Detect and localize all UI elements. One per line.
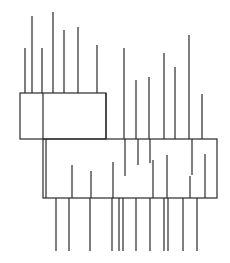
spikes-above-upper-box [25,12,97,93]
line-diagram-canvas [0,0,230,263]
box-outlines [20,93,217,198]
inner-drop-lines [125,139,192,176]
box-dividers [43,93,106,198]
lower-box [43,139,217,198]
spikes-above-lower-box [124,35,202,139]
spikes-below-lower-box [56,198,197,251]
upper-box [20,93,106,139]
